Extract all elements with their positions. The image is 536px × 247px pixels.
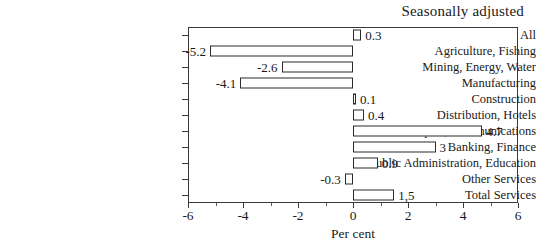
x-axis-title: Per cent [188,226,518,242]
x-axis-tick-label: 4 [460,209,467,223]
bar [345,174,353,185]
bar-row: 4.7 [0,123,536,139]
x-axis-minor-tick [491,203,492,206]
x-axis-tick-label: 0 [350,209,357,223]
bar [353,94,356,105]
bar-value-label: 4.7 [486,125,502,138]
bar-row: 1,5 [0,187,536,203]
bar-value-label: -2.6 [257,61,278,74]
bar-value-label: -5.2 [185,45,206,58]
bar [210,46,353,57]
x-axis-minor-tick [271,203,272,206]
bar [353,142,436,153]
bar [282,62,354,73]
bar-value-label: 1,5 [398,189,414,202]
x-axis-minor-tick [381,203,382,206]
bar [353,190,394,201]
bar-value-label: -4.1 [216,77,237,90]
bar-row: 0.1 [0,91,536,107]
x-axis-minor-tick [326,203,327,206]
bar-value-label: 0.4 [368,109,384,122]
bar-value-label: 3 [440,141,447,154]
x-axis-tick-label: -4 [237,209,248,223]
bar [353,30,361,41]
x-axis-tick-label: 6 [515,209,522,223]
bar-value-label: 0.9 [382,157,398,170]
bar-chart-figure: Seasonally adjusted AllAgriculture, Fish… [0,0,536,247]
chart-title: Seasonally adjusted [0,3,524,20]
bar-row: -2.6 [0,59,536,75]
x-axis-tick-label: 2 [405,209,412,223]
x-axis-tick-label: -2 [292,209,303,223]
bar-row: 3 [0,139,536,155]
bar-value-label: -0.3 [320,173,341,186]
x-axis-minor-tick [216,203,217,206]
bar-row: -0.3 [0,171,536,187]
x-axis-tick-label: -6 [182,209,193,223]
bar-value-label: 0.3 [365,29,381,42]
bar [353,158,378,169]
bar [240,78,353,89]
bar-row: 0.9 [0,155,536,171]
bar-row: 0.4 [0,107,536,123]
bar-row: 0.3 [0,27,536,43]
bar-row: -4.1 [0,75,536,91]
x-axis-minor-tick [436,203,437,206]
bar [353,126,482,137]
bar-row: -5.2 [0,43,536,59]
bar [353,110,364,121]
bar-value-label: 0.1 [360,93,376,106]
